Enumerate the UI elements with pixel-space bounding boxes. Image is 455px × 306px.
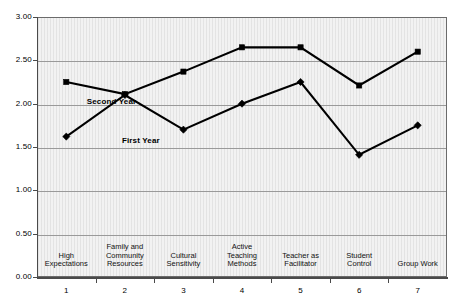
gridline-0.50 xyxy=(38,235,446,236)
y-tick-mark-1.00 xyxy=(33,190,37,191)
category-label-line: Sensitivity xyxy=(167,260,201,269)
y-tick-mark-0.50 xyxy=(33,234,37,235)
x-tick-mark-3 xyxy=(213,279,214,283)
category-label-line: Methods xyxy=(227,260,257,269)
x-tick-mark-5 xyxy=(330,279,331,283)
gridline-1.00 xyxy=(38,191,446,192)
y-tick-label-2.50: 2.50 xyxy=(0,55,32,64)
category-label-line: Control xyxy=(346,260,372,269)
y-tick-label-1.00: 1.00 xyxy=(0,185,32,194)
category-label-2: Family andCommunityResources xyxy=(106,243,144,269)
series-label-second-year: Second Year xyxy=(87,97,137,106)
y-tick-mark-2.50 xyxy=(33,60,37,61)
x-tick-mark-1 xyxy=(96,279,97,283)
y-tick-mark-2.00 xyxy=(33,104,37,105)
x-axis-line xyxy=(37,277,448,279)
category-label-3: CulturalSensitivity xyxy=(167,252,201,269)
x-tick-label-5: 5 xyxy=(298,286,302,295)
category-label-6: StudentControl xyxy=(346,252,372,269)
y-tick-mark-0.00 xyxy=(33,277,37,278)
x-tick-label-7: 7 xyxy=(415,286,419,295)
category-label-line: Facilitator xyxy=(282,260,319,269)
x-tick-label-6: 6 xyxy=(357,286,361,295)
x-tick-mark-2 xyxy=(154,279,155,283)
category-label-line: Group Work xyxy=(398,260,438,269)
y-tick-label-3.00: 3.00 xyxy=(0,12,32,21)
y-tick-label-1.50: 1.50 xyxy=(0,142,32,151)
category-label-5: Teacher asFacilitator xyxy=(282,252,319,269)
gridline-2.50 xyxy=(38,61,446,62)
category-label-4: ActiveTeachingMethods xyxy=(227,243,257,269)
x-tick-label-1: 1 xyxy=(64,286,68,295)
x-tick-label-2: 2 xyxy=(123,286,127,295)
category-label-7: Group Work xyxy=(398,260,438,269)
y-tick-mark-1.50 xyxy=(33,147,37,148)
category-label-line: Expectations xyxy=(45,260,88,269)
x-tick-mark-6 xyxy=(388,279,389,283)
x-tick-label-4: 4 xyxy=(240,286,244,295)
line-chart: 0.000.501.001.502.002.503.00 HighExpecta… xyxy=(0,0,455,306)
y-tick-label-2.00: 2.00 xyxy=(0,99,32,108)
series-label-first-year: First Year xyxy=(122,136,160,145)
y-tick-label-0.00: 0.00 xyxy=(0,272,32,281)
x-tick-label-3: 3 xyxy=(181,286,185,295)
plot-area xyxy=(37,17,447,277)
category-label-line: Resources xyxy=(106,260,144,269)
gridline-1.50 xyxy=(38,148,446,149)
category-label-1: HighExpectations xyxy=(45,252,88,269)
y-tick-label-0.50: 0.50 xyxy=(0,229,32,238)
x-tick-mark-4 xyxy=(271,279,272,283)
y-axis-line xyxy=(37,17,38,278)
y-tick-mark-3.00 xyxy=(33,17,37,18)
